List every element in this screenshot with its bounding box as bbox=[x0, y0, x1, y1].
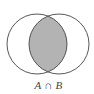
intersection-label: A ∩ B bbox=[0, 79, 94, 91]
venn-diagram: A ∩ B bbox=[0, 0, 94, 94]
